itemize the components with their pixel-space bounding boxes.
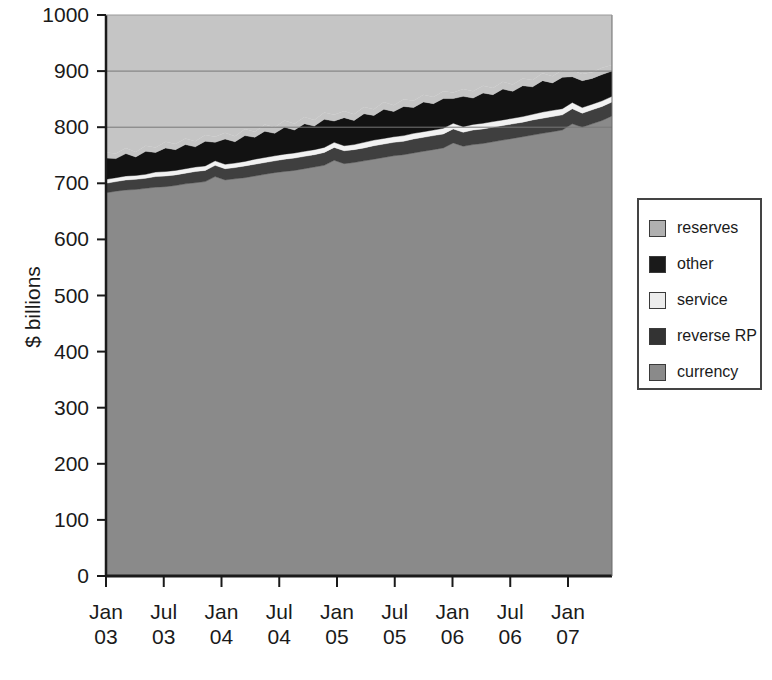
x-tick-label-year: 07 — [533, 624, 603, 649]
legend-item-currency[interactable]: currency — [649, 354, 760, 390]
legend-swatch-icon — [649, 292, 666, 309]
x-tick-label-month: Jul — [266, 600, 293, 623]
legend-item-other[interactable]: other — [649, 246, 760, 282]
legend-item-reserves[interactable]: reserves — [649, 210, 760, 246]
x-tick-label-month: Jul — [497, 600, 524, 623]
x-tick-marks — [106, 576, 568, 587]
x-tick-label-month: Jan — [436, 600, 470, 623]
x-tick-label: Jan07 — [533, 599, 603, 649]
plot-area — [106, 15, 612, 576]
legend-swatch-icon — [649, 256, 666, 273]
y-axis-title: $ billions — [21, 212, 45, 402]
x-tick-label-month: Jul — [381, 600, 408, 623]
x-tick-label-month: Jan — [551, 600, 585, 623]
x-tick-label-month: Jan — [205, 600, 239, 623]
legend-label: service — [677, 291, 728, 309]
x-tick-label-month: Jan — [89, 600, 123, 623]
legend-swatch-icon — [649, 328, 666, 345]
y-tick-label: 900 — [19, 60, 89, 81]
y-tick-label: 100 — [19, 509, 89, 530]
legend-label: reverse RP — [677, 327, 757, 345]
y-tick-label: 0 — [19, 565, 89, 586]
area-series-currency — [106, 116, 612, 576]
chart-figure: 01002003004005006007008009001000 Jan03Ju… — [0, 0, 772, 680]
legend-item-service[interactable]: service — [649, 282, 760, 318]
y-tick-label: 700 — [19, 172, 89, 193]
legend-label: currency — [677, 363, 738, 381]
legend-item-reverse-rp[interactable]: reverse RP — [649, 318, 760, 354]
x-tick-label-month: Jan — [320, 600, 354, 623]
chart-legend: reservesotherservicereverse RPcurrency — [637, 198, 762, 390]
legend-swatch-icon — [649, 220, 666, 237]
legend-swatch-icon — [649, 364, 666, 381]
y-tick-label: 1000 — [19, 4, 89, 25]
legend-label: other — [677, 255, 713, 273]
y-tick-label: 200 — [19, 453, 89, 474]
y-tick-marks — [97, 15, 106, 576]
x-tick-label-month: Jul — [150, 600, 177, 623]
y-tick-label: 800 — [19, 116, 89, 137]
legend-label: reserves — [677, 219, 738, 237]
